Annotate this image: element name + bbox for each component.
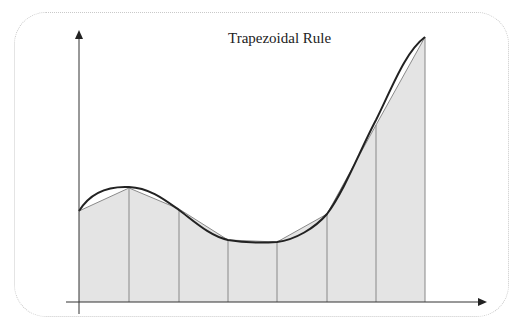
- trapezoids: [79, 37, 425, 302]
- trapezoid-fill: [79, 37, 425, 302]
- x-axis-arrow-icon: [478, 298, 487, 306]
- diagram-title: Trapezoidal Rule: [228, 30, 331, 47]
- trapezoidal-rule-diagram: [0, 0, 528, 330]
- y-axis-arrow-icon: [75, 30, 83, 39]
